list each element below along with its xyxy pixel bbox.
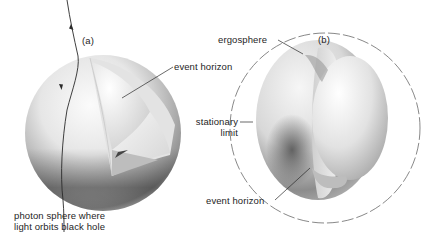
panel-a-sphere [25,55,181,211]
event-horizon-label-a: event horizon [174,61,232,72]
stationary-limit-label-line2: limit [190,127,238,138]
event-horizon-label-b: event horizon [206,195,264,206]
stationary-limit-label-line1: stationary [190,116,238,127]
ergosphere-label: ergosphere [218,34,267,45]
arrow-icon [69,24,74,30]
black-hole-diagram: (a) event horizon photon sphere where li… [0,0,422,232]
photon-sphere-label-line2: light orbits black hole [14,221,105,232]
photon-sphere-label-line1: photon sphere where [14,210,105,221]
panel-b-tag: (b) [318,34,330,45]
panel-a-tag: (a) [82,35,94,46]
